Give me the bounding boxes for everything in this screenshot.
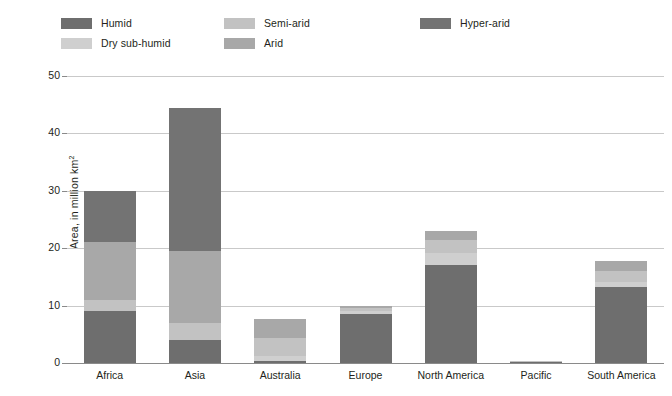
bar-segment-dry-sub-humid	[595, 282, 647, 288]
bar-south-america	[595, 261, 647, 363]
y-tick-mark	[62, 306, 67, 307]
y-tick-mark	[62, 363, 67, 364]
y-tick-label: 20	[38, 241, 60, 253]
bar-segment-semi-arid	[169, 323, 221, 340]
y-tick-label: 10	[38, 299, 60, 311]
y-gridline	[67, 76, 664, 77]
bar-segment-arid	[595, 261, 647, 270]
y-gridline	[67, 248, 664, 249]
y-tick-mark	[62, 191, 67, 192]
bar-segment-humid	[340, 314, 392, 363]
bar-segment-dry-sub-humid	[425, 253, 477, 266]
y-tick-label: 50	[38, 69, 60, 81]
bar-segment-arid	[254, 319, 306, 338]
bar-segment-humid	[254, 361, 306, 363]
x-tick-label: South America	[561, 369, 672, 381]
bar-segment-semi-arid	[84, 300, 136, 311]
bar-segment-hyper-arid	[169, 108, 221, 252]
y-tick-label: 40	[38, 126, 60, 138]
bar-segment-humid	[169, 340, 221, 363]
bar-segment-semi-arid	[425, 240, 477, 253]
bar-africa	[84, 191, 136, 363]
bar-segment-humid	[595, 287, 647, 363]
y-gridline	[67, 133, 664, 134]
bar-australia	[254, 319, 306, 363]
y-tick-mark	[62, 133, 67, 134]
bar-pacific	[510, 361, 562, 363]
bar-segment-semi-arid	[595, 271, 647, 282]
plot-inner	[67, 76, 664, 363]
bar-north-america	[425, 231, 477, 363]
bar-segment-semi-arid	[254, 338, 306, 356]
bar-segment-humid	[510, 361, 562, 363]
bar-segment-arid	[425, 231, 477, 240]
bar-segment-arid	[169, 251, 221, 323]
y-tick-mark	[62, 248, 67, 249]
bar-segment-semi-arid	[340, 308, 392, 311]
x-axis-line	[67, 363, 664, 364]
bar-segment-dry-sub-humid	[340, 311, 392, 314]
y-tick-label: 30	[38, 184, 60, 196]
chart-plot-area: Area, in million km2 01020304050AfricaAs…	[0, 0, 672, 396]
bar-segment-hyper-arid	[84, 191, 136, 243]
bar-segment-humid	[425, 265, 477, 363]
bar-segment-humid	[84, 311, 136, 363]
y-tick-mark	[62, 76, 67, 77]
bar-segment-arid	[84, 242, 136, 299]
bar-segment-arid	[340, 306, 392, 308]
bar-asia	[169, 108, 221, 363]
bar-segment-dry-sub-humid	[254, 356, 306, 362]
y-gridline	[67, 191, 664, 192]
y-tick-label: 0	[38, 356, 60, 368]
bar-europe	[340, 306, 392, 363]
